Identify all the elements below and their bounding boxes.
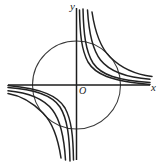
- curve-upper-right-4: [92, 12, 152, 77]
- origin-label: O: [79, 86, 86, 96]
- x-axis-label: x: [151, 82, 156, 93]
- curve-lower-left-3: [8, 91, 66, 160]
- math-figure: y x O: [0, 0, 162, 164]
- y-axis-label: y: [70, 1, 75, 12]
- figure-canvas: [0, 0, 162, 164]
- curve-upper-right-3: [88, 10, 151, 79]
- curve-lower-left-4: [8, 94, 61, 159]
